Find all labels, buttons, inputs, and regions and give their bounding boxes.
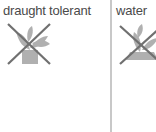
column-label: draught tolerant — [3, 3, 91, 18]
plant-crossed-icon — [6, 22, 54, 66]
plant-crossed-icon — [118, 22, 156, 66]
column-water: water — [112, 0, 156, 132]
column-label: water — [116, 3, 147, 18]
column-draught-tolerant: draught tolerant — [0, 0, 110, 132]
